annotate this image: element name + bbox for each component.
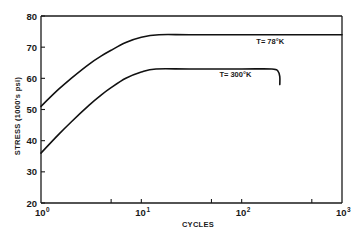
y-axis-title: STRESS (1000's psi) <box>13 77 22 156</box>
x-tick-label: 101 <box>135 206 150 218</box>
y-tick-label: 70 <box>26 42 37 53</box>
y-tick-label: 50 <box>26 104 37 115</box>
series-line-t300k <box>41 69 280 153</box>
series-line-t78k <box>41 35 342 107</box>
series-label-t78k: T= 78°K <box>256 37 284 46</box>
plot-frame <box>41 16 342 203</box>
y-tick-label: 80 <box>26 11 37 22</box>
x-tick-label: 102 <box>236 206 251 218</box>
x-axis-title: CYCLES <box>182 220 214 229</box>
x-tick-label: 103 <box>336 206 351 218</box>
y-tick-label: 60 <box>26 73 37 84</box>
y-tick-label: 40 <box>26 135 37 146</box>
stress-cycles-chart: 20304050607080 100101102103 T= 78°KT= 30… <box>0 0 359 235</box>
series-labels: T= 78°KT= 300°K <box>219 37 284 79</box>
series-label-t300k: T= 300°K <box>219 70 252 79</box>
y-tick-label: 30 <box>26 166 37 177</box>
x-tick-label: 100 <box>35 206 50 218</box>
series-curves <box>41 35 342 154</box>
x-axis-ticks: 100101102103 <box>35 199 351 218</box>
y-axis-ticks: 20304050607080 <box>26 11 45 209</box>
